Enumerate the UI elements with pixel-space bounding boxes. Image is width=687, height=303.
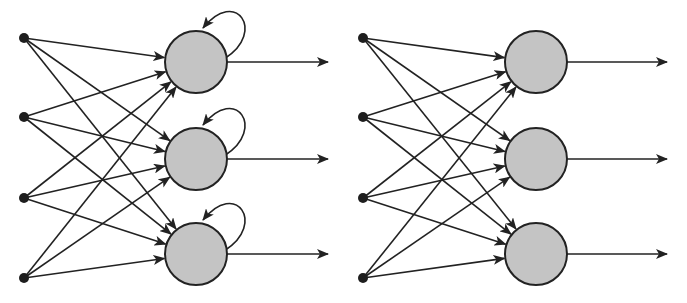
connection-arrow: [363, 258, 504, 278]
neuron-node: [505, 31, 567, 93]
input-node: [19, 273, 29, 283]
diagram-canvas: [0, 0, 687, 303]
connection-arrow: [24, 38, 170, 141]
connection-arrow: [363, 198, 506, 244]
connection-arrow: [24, 38, 164, 58]
input-node: [19, 193, 29, 203]
connection-arrow: [24, 72, 166, 117]
input-node: [19, 112, 29, 122]
input-node: [358, 273, 368, 283]
connection-arrow: [363, 38, 504, 58]
connection-arrow: [363, 87, 516, 278]
feedforward-network: [358, 31, 667, 285]
input-node: [19, 33, 29, 43]
neuron-node: [165, 128, 227, 190]
connection-arrow: [363, 38, 510, 141]
connection-arrow: [24, 258, 164, 278]
input-node: [358, 112, 368, 122]
recurrent-network: [19, 11, 328, 285]
neuron-node: [505, 223, 567, 285]
neuron-node: [505, 128, 567, 190]
neuron-node: [165, 31, 227, 93]
input-node: [358, 33, 368, 43]
input-node: [358, 193, 368, 203]
connection-arrow: [24, 87, 176, 278]
connection-arrow: [363, 38, 516, 229]
neural-network-diagram: [0, 0, 687, 303]
connection-arrow: [24, 198, 166, 244]
connection-arrow: [24, 38, 176, 229]
connection-arrow: [363, 72, 506, 117]
neuron-node: [165, 223, 227, 285]
